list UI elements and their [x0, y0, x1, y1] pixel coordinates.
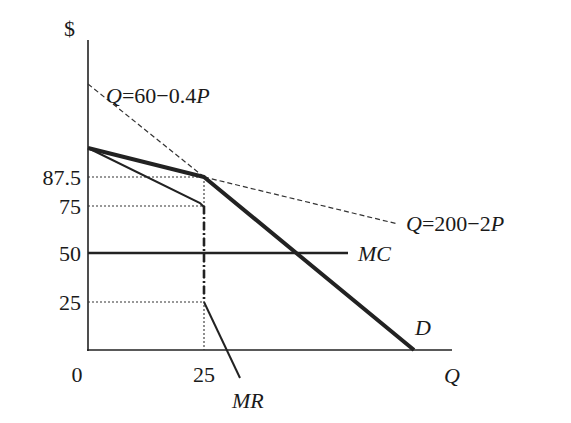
y-tick-25: 25 — [59, 290, 81, 315]
y-tick-75: 75 — [59, 194, 81, 219]
curve-label-q-60: Q=60−0.4P — [106, 83, 210, 108]
y-tick-50: 50 — [59, 241, 81, 266]
guide-lines — [88, 177, 204, 350]
x-axis-label: Q — [444, 363, 460, 388]
origin-label: 0 — [72, 362, 83, 387]
x-tick-25: 25 — [193, 362, 215, 387]
kinked-demand-chart: $ 87.5 75 50 25 0 25 Q Q=60−0.4P Q=200−2… — [0, 0, 571, 423]
curve-label-q-200: Q=200−2P — [406, 211, 504, 236]
demand-label: D — [414, 315, 431, 340]
mr-label: MR — [231, 388, 264, 413]
y-tick-87-5: 87.5 — [43, 165, 82, 190]
mc-label: MC — [357, 241, 391, 266]
y-axis-label: $ — [64, 16, 75, 41]
